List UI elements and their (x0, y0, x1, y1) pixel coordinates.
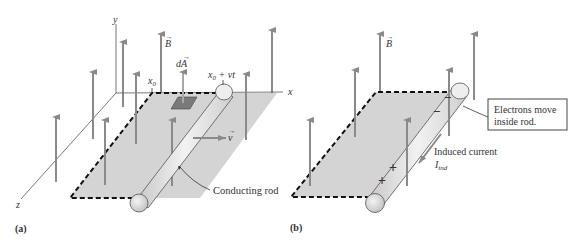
z-axis-label: z (15, 199, 20, 210)
panel-b-caption: (b) (290, 222, 302, 234)
panel-a-caption: (a) (15, 223, 27, 235)
faraday-diagram: y x z v (0, 0, 582, 246)
induced-current-label: Induced current (434, 146, 497, 157)
vector-hat: → (229, 127, 236, 135)
vector-hat: → (183, 53, 190, 61)
electrons-callout-line2: inside rod. (494, 116, 536, 127)
y-axis-label: y (112, 14, 118, 25)
negative-charge: − (444, 90, 451, 105)
induced-current-symbol: Iind (434, 159, 448, 172)
panel-b: − − + + Induced current Iind B → Electro… (290, 33, 567, 234)
electrons-callout-line (463, 106, 488, 117)
positive-charge: + (378, 173, 386, 188)
x-axis-label: x (287, 86, 293, 97)
vector-hat: → (387, 33, 394, 41)
positive-charge: + (389, 160, 397, 175)
vector-hat: → (166, 33, 173, 41)
negative-charge: − (433, 104, 440, 119)
rod-callout-label: Conducting rod (213, 185, 279, 196)
rod-position-label: x0 + vt (207, 69, 235, 82)
panel-a: y x z v (15, 14, 293, 235)
x0-label: x0 (147, 75, 156, 88)
electrons-callout-line1: Electrons move (494, 104, 557, 115)
